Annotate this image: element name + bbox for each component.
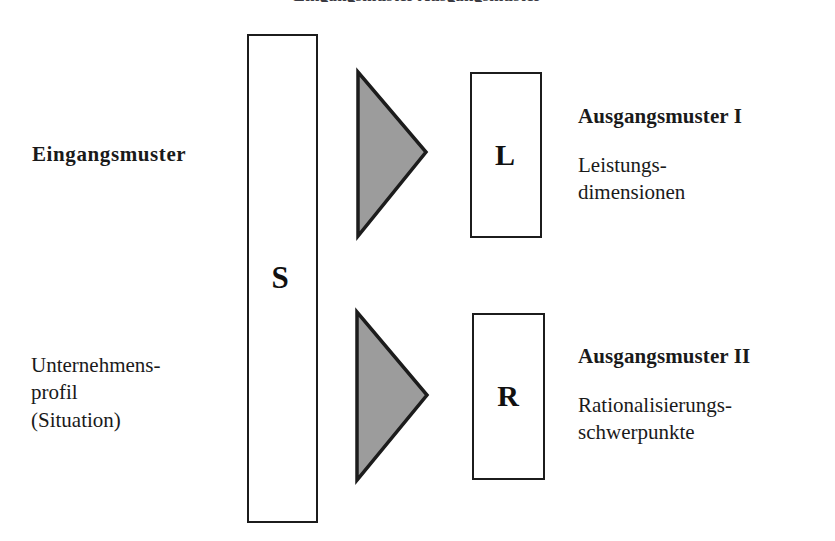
input-pattern-heading: Eingangsmuster [32,142,186,166]
description-line-2: profil [31,380,78,404]
output-pattern-1-heading: Ausgangsmuster I [578,104,742,128]
leistung-box-letter: L [470,140,542,170]
description-line-1: Leistungs- [578,153,667,177]
output-pattern-2-description: Rationalisierungs- schwerpunkte [578,392,732,447]
diagram-canvas: Eingangsmuster Ausgangsmuster Eingangsmu… [0,0,835,541]
rationalisierung-box-letter: R [472,381,545,411]
input-pattern-description: Unternehmens- profil (Situation) [31,352,160,434]
description-line-2: dimensionen [578,180,685,204]
description-line-3: (Situation) [31,408,121,432]
situation-box-letter: S [247,262,318,293]
cropped-header-text: Eingangsmuster Ausgangsmuster [0,0,835,2]
output-pattern-1-description: Leistungs- dimensionen [578,152,685,207]
description-line-1: Unternehmens- [31,353,160,377]
output-pattern-2-heading: Ausgangsmuster II [578,344,750,368]
arrow-to-l-icon [350,64,432,244]
arrow-to-r-icon [349,304,433,488]
description-line-1: Rationalisierungs- [578,393,732,417]
description-line-2: schwerpunkte [578,420,695,444]
